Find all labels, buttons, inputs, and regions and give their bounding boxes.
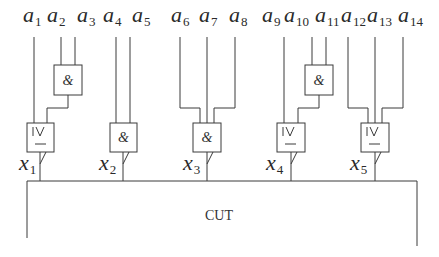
cut-label: CUT (205, 208, 233, 223)
input-label-a13: a13 (367, 2, 392, 29)
input-label-a4: a4 (103, 2, 122, 29)
output-slash-x1 (40, 152, 46, 164)
lower-gate-2-and: & (110, 123, 137, 152)
input-label-a9: a9 (262, 2, 281, 29)
output-label-x4: x4 (265, 150, 284, 177)
wire-a12 (348, 37, 368, 123)
output-label-x1: x1 (18, 150, 36, 177)
cut-block: CUT (27, 181, 417, 246)
input-label-a5: a5 (132, 2, 151, 29)
output-label-x5: x5 (349, 150, 367, 177)
lower-gate-1-threshold (27, 123, 54, 152)
lower-gate-4-threshold (277, 123, 305, 152)
input-label-a3: a3 (77, 2, 96, 29)
output-slash-x3 (207, 152, 213, 164)
wire-and1-out (47, 95, 68, 123)
wire-a8 (214, 37, 235, 123)
input-label-a14: a14 (398, 2, 424, 29)
and-symbol: & (118, 130, 129, 145)
wire-and2-out (298, 95, 319, 123)
input-label-a1: a1 (23, 2, 42, 29)
input-label-a10: a10 (284, 2, 309, 29)
output-label-x3: x3 (182, 150, 200, 177)
lower-gate-5-threshold (361, 123, 389, 152)
logic-circuit-diagram: a1 a2 a3 a4 a5 a6 a7 a8 a9 a10 a11 a12 a… (0, 0, 439, 257)
input-label-a8: a8 (229, 2, 248, 29)
output-slash-x5 (375, 152, 381, 164)
lower-gate-3-and: & (193, 123, 221, 152)
output-label-x2: x2 (98, 150, 116, 177)
input-labels: a1 a2 a3 a4 a5 a6 a7 a8 a9 a10 a11 a12 a… (23, 2, 424, 29)
output-slash-x2 (123, 152, 129, 164)
wire-a14 (382, 37, 403, 123)
input-label-a6: a6 (171, 2, 190, 29)
output-wires (40, 152, 381, 181)
input-label-a12: a12 (341, 2, 366, 29)
and-symbol: & (314, 73, 325, 88)
input-wires (34, 37, 403, 123)
output-slash-x4 (291, 152, 297, 164)
and-symbol: & (63, 73, 74, 88)
input-label-a11: a11 (315, 2, 340, 29)
wire-a6 (180, 37, 200, 123)
upper-and-gate-1: & (54, 65, 82, 95)
input-label-a7: a7 (199, 2, 218, 29)
and-symbol: & (202, 130, 213, 145)
output-labels: x1 x2 x3 x4 x5 (18, 150, 367, 177)
upper-and-gate-2: & (305, 65, 333, 95)
input-label-a2: a2 (47, 2, 66, 29)
